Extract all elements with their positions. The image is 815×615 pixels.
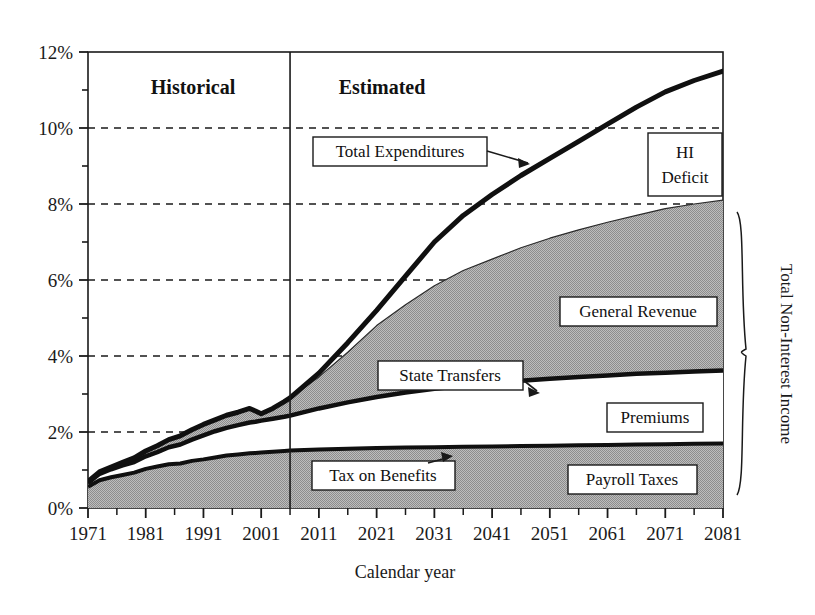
label-historical: Historical (151, 76, 236, 98)
x-axis-title: Calendar year (355, 562, 455, 582)
y-tick-label-4: 4% (48, 346, 74, 367)
callout-general-revenue: General Revenue (560, 297, 717, 326)
y-tick-label-8: 8% (48, 194, 74, 215)
y-tick-label-0: 0% (48, 498, 74, 519)
callout-total-expenditures-label: Total Expenditures (336, 142, 465, 161)
callout-payroll-taxes: Payroll Taxes (568, 465, 697, 494)
x-tick-label-1991: 1991 (184, 523, 222, 544)
y-tick-label-10: 10% (38, 118, 73, 139)
callout-hi-deficit: HI Deficit (648, 133, 722, 196)
callout-hi-deficit-line2: Deficit (661, 168, 708, 187)
x-tick-label-2001: 2001 (242, 523, 280, 544)
x-tick-label-2021: 2021 (358, 523, 396, 544)
callout-premiums-label: Premiums (621, 408, 690, 427)
chart-svg: 0%2%4%6%8%10%12% 19711981199120012011202… (0, 0, 815, 615)
x-tick-label-2031: 2031 (415, 523, 453, 544)
callout-tax-on-benefits-label: Tax on Benefits (329, 466, 436, 485)
label-estimated: Estimated (339, 76, 426, 98)
x-tick-label-2071: 2071 (646, 523, 684, 544)
y-tick-label-12: 12% (38, 42, 73, 63)
x-tick-label-1981: 1981 (127, 523, 165, 544)
x-tick-label-2041: 2041 (473, 523, 511, 544)
x-tick-label-2081: 2081 (704, 523, 742, 544)
callout-state-transfers-label: State Transfers (399, 366, 501, 385)
callout-hi-deficit-line1: HI (676, 143, 694, 162)
y-tick-label-2: 2% (48, 422, 74, 443)
chart-figure: 0%2%4%6%8%10%12% 19711981199120012011202… (0, 0, 815, 615)
callout-premiums: Premiums (607, 403, 703, 432)
total-non-interest-income-label: Total Non-Interest Income (777, 264, 796, 444)
x-tick-label-2061: 2061 (589, 523, 627, 544)
y-tick-label-6: 6% (48, 270, 74, 291)
x-tick-label-1971: 1971 (69, 523, 107, 544)
callout-general-revenue-label: General Revenue (579, 302, 697, 321)
x-tick-label-2011: 2011 (300, 523, 337, 544)
callout-payroll-taxes-label: Payroll Taxes (586, 470, 678, 489)
x-tick-label-2051: 2051 (531, 523, 569, 544)
